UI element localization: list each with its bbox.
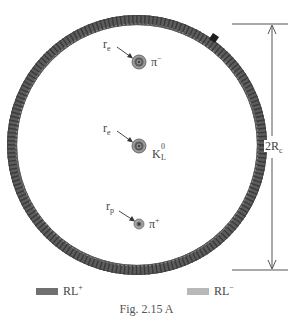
- legend-swatch-rl-minus: [187, 288, 209, 295]
- particle-pi-plus: [119, 211, 144, 229]
- diameter-label: 2Rc: [264, 140, 284, 152]
- k-long-superscript: 0: [161, 143, 165, 151]
- k-long-subscript: L: [161, 154, 166, 162]
- radius-label-pi-plus: rp: [106, 200, 114, 212]
- radius-label-k-long: re: [103, 122, 111, 134]
- symbol-label-k-long: K: [152, 148, 161, 160]
- particle-k-long: [117, 131, 146, 153]
- symbol-label-pi-minus: π−: [151, 56, 162, 68]
- legend-label-rl-minus: RL−: [214, 285, 234, 297]
- radius-label-pi-minus: re: [103, 38, 111, 50]
- legend-label-rl-plus: RL+: [63, 285, 83, 297]
- symbol-label-pi-plus: π+: [149, 218, 160, 230]
- particle-pi-minus: [117, 47, 146, 69]
- figure-caption: Fig. 2.15 A: [0, 302, 293, 317]
- legend-swatch-rl-plus: [36, 288, 58, 295]
